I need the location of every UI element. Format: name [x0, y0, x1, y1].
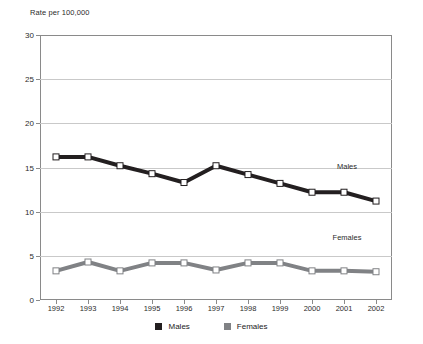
x-axis-tick-label: 1993: [80, 304, 97, 313]
y-axis-tick-label: 25: [10, 75, 34, 84]
gridline: [40, 256, 392, 257]
x-axis-tick-label: 1992: [48, 304, 65, 313]
x-axis-tick-label: 1994: [112, 304, 129, 313]
x-axis-tick-label: 2001: [336, 304, 353, 313]
y-axis-tick-label: 15: [10, 163, 34, 172]
y-axis-tick-label: 30: [10, 31, 34, 40]
legend-item-females[interactable]: Females: [224, 322, 268, 331]
gridline: [40, 212, 392, 213]
x-axis-tick-label: 2000: [304, 304, 321, 313]
y-axis-tick-label: 5: [10, 251, 34, 260]
x-axis-tick-label: 1997: [208, 304, 225, 313]
series-annotation-males: Males: [337, 162, 357, 171]
y-axis-tick-mark: [36, 79, 40, 80]
legend-swatch-males: [155, 323, 162, 330]
series-annotation-females: Females: [333, 233, 362, 242]
x-axis-tick-label: 1998: [240, 304, 257, 313]
chart-figure: Rate per 100,000 051015202530 1992199319…: [0, 0, 423, 344]
legend-label-females: Females: [237, 322, 268, 331]
chart-legend: Males Females: [0, 322, 423, 331]
y-axis-tick-label: 10: [10, 207, 34, 216]
y-axis-title: Rate per 100,000: [30, 8, 90, 17]
y-axis-tick-mark: [36, 35, 40, 36]
legend-swatch-females: [224, 323, 231, 330]
y-axis-tick-mark: [36, 256, 40, 257]
x-axis-tick-label: 1996: [176, 304, 193, 313]
legend-label-males: Males: [168, 322, 189, 331]
y-axis-tick-mark: [36, 212, 40, 213]
y-axis-tick-mark: [36, 300, 40, 301]
y-axis-tick-mark: [36, 168, 40, 169]
y-axis-tick-label: 20: [10, 119, 34, 128]
legend-item-males[interactable]: Males: [155, 322, 189, 331]
y-axis-tick-label: 0: [10, 296, 34, 305]
x-axis-tick-label: 1999: [272, 304, 289, 313]
y-axis-tick-mark: [36, 123, 40, 124]
x-axis-tick-label: 1995: [144, 304, 161, 313]
gridline: [40, 123, 392, 124]
x-axis-tick-label: 2002: [368, 304, 385, 313]
gridline: [40, 79, 392, 80]
